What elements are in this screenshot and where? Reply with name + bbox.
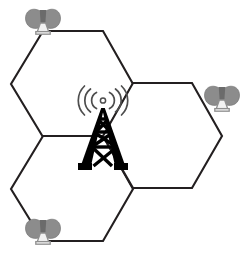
antenna-foot-icon — [36, 32, 50, 35]
antenna-foot-icon — [215, 109, 229, 112]
antenna-wing-right-icon — [225, 86, 240, 105]
antenna-wing-right-icon — [46, 9, 61, 28]
antenna-wing-left-icon — [25, 219, 40, 238]
tower-base-right-foot — [114, 163, 128, 170]
hexagon-cell-group — [11, 31, 222, 241]
antenna-wing-left-icon — [204, 86, 219, 105]
antenna-right[interactable] — [204, 86, 239, 111]
tower-base-left-foot — [78, 163, 92, 170]
diagram-canvas — [0, 0, 240, 253]
antenna-foot-icon — [36, 242, 50, 245]
antenna-wing-left-icon — [25, 9, 40, 28]
cell-network-diagram: Cellular network cell cluster diagram Th… — [0, 0, 240, 253]
